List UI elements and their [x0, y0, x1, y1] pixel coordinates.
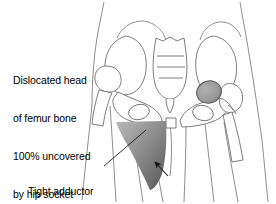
left-femoral-neck — [92, 90, 112, 126]
coccyx — [166, 99, 174, 113]
dislocation-label-line-2: of femur bone — [13, 112, 90, 125]
right-thigh-outer — [262, 140, 268, 202]
right-greater-trochanter — [219, 83, 242, 112]
anatomical-figure: Dislocated head of femur bone 100% uncov… — [0, 0, 276, 204]
right-abdominal-crease — [200, 22, 241, 40]
pelvis-bones — [92, 36, 243, 162]
right-thigh-crease-a — [205, 124, 214, 202]
pubic-symphysis — [166, 118, 176, 128]
right-thigh-inner — [184, 126, 186, 202]
tight-adductor-muscle-group — [116, 121, 166, 190]
adductor-label-line-1: Tight adductor — [28, 185, 93, 198]
left-acetabulum — [95, 66, 121, 92]
groin-contour — [170, 124, 172, 176]
dislocation-label-line-1: Dislocated head — [13, 74, 90, 87]
tight-adductor-muscle-wedge — [116, 121, 166, 190]
sacrum — [153, 37, 187, 99]
right-flank-contour — [240, 2, 262, 140]
adductor-label: Tight adductor muscles — [28, 160, 93, 204]
left-thigh-crease-a — [110, 106, 116, 202]
